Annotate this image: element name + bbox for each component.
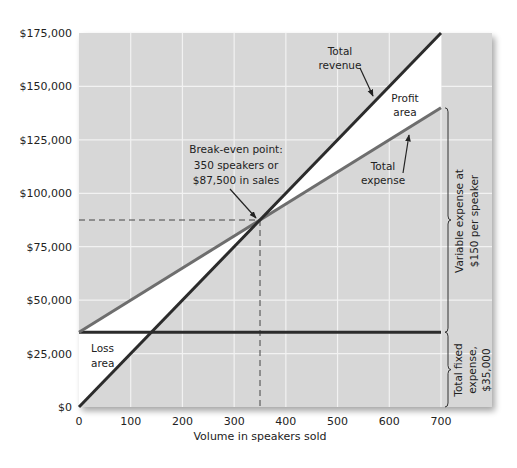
x-tick-label: 0 [76, 415, 83, 428]
fixed-expense-label-line: expense, [466, 346, 478, 394]
break-even-label-line: Break-even point: [189, 143, 283, 155]
total-revenue-label-line: revenue [319, 59, 362, 71]
x-tick-label: 400 [275, 415, 296, 428]
fixed-expense-label-line: Total fixed [452, 343, 464, 398]
fixed-expense-label: Total fixedexpense,$35,000 [452, 343, 492, 398]
break-even-label-line: $87,500 in sales [193, 174, 279, 186]
break-even-label-line: 350 speakers or [194, 159, 279, 171]
x-tick-label: 200 [172, 415, 193, 428]
y-axis-ticks: $0$25,000$50,000$75,000$100,000$125,000$… [20, 27, 73, 414]
x-tick-label: 300 [224, 415, 245, 428]
x-tick-label: 700 [431, 415, 452, 428]
x-tick-label: 500 [327, 415, 348, 428]
variable-expense-label-line: $150 per speaker [468, 174, 480, 267]
fixed-expense-label-line: $35,000 [480, 348, 492, 391]
total-expense-label-line: expense [361, 174, 405, 186]
y-tick-label: $175,000 [20, 27, 73, 40]
y-tick-label: $50,000 [27, 294, 73, 307]
profit-area-label-line: Profit [391, 92, 418, 104]
y-tick-label: $125,000 [20, 134, 73, 147]
profit-area-label-line: area [393, 106, 416, 118]
variable-expense-label-line: Variable expense at [453, 169, 465, 273]
y-tick-label: $0 [58, 401, 72, 414]
x-axis-ticks: 0100200300400500600700 [76, 415, 452, 428]
break-even-label: Break-even point:350 speakers or$87,500 … [189, 143, 283, 186]
x-tick-label: 100 [120, 415, 141, 428]
y-tick-label: $75,000 [27, 241, 73, 254]
break-even-chart: $0$25,000$50,000$75,000$100,000$125,000$… [0, 0, 517, 468]
loss-area-label-line: area [91, 357, 114, 369]
x-axis-title: Volume in speakers sold [193, 430, 326, 443]
total-expense-label-line: Total [370, 160, 396, 172]
y-tick-label: $150,000 [20, 80, 73, 93]
x-tick-label: 600 [379, 415, 400, 428]
y-tick-label: $100,000 [20, 187, 73, 200]
y-tick-label: $25,000 [27, 348, 73, 361]
loss-area-label-line: Loss [91, 342, 114, 354]
total-revenue-label-line: Total [327, 45, 353, 57]
